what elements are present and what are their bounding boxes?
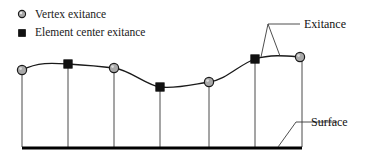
- callout-exitance-leader: [261, 24, 300, 57]
- vertex-exitance-point: [204, 77, 213, 86]
- circle-marker-icon: [18, 10, 25, 17]
- callout-exitance: Exitance: [261, 17, 346, 57]
- data-point-markers: [17, 52, 304, 91]
- element-center-exitance-point: [251, 55, 259, 63]
- circle-marker-highlight-icon: [20, 12, 22, 14]
- callout-surface-label: Surface: [311, 115, 348, 129]
- element-center-exitance-point: [156, 83, 164, 91]
- vertex-exitance-point: [109, 63, 118, 72]
- legend-label-vertex-exitance: Vertex exitance: [35, 8, 106, 20]
- square-marker-icon: [19, 30, 26, 37]
- legend-item-element-center-exitance: Element center exitance: [19, 26, 146, 38]
- element-dividers: [22, 57, 302, 147]
- legend-item-vertex-exitance: Vertex exitance: [18, 8, 106, 20]
- callout-exitance-label: Exitance: [304, 17, 346, 31]
- vertex-exitance-point: [295, 52, 304, 61]
- vertex-exitance-point: [17, 65, 26, 74]
- callout-surface: Surface: [278, 115, 348, 147]
- element-center-exitance-point: [64, 60, 72, 68]
- legend: Vertex exitance Element center exitance: [18, 8, 145, 38]
- legend-label-element-center-exitance: Element center exitance: [35, 26, 145, 38]
- exitance-diagram: Vertex exitance Element center exitance: [0, 0, 375, 162]
